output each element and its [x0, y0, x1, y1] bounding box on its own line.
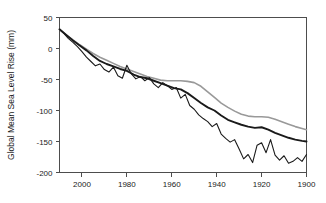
data-series-group: [60, 29, 307, 163]
y-tick-label: -100: [36, 107, 53, 116]
y-tick-label: -200: [36, 169, 53, 178]
series-line-thick-black-smoothed: [60, 29, 307, 141]
x-axis-ticks: 200019801960194019201900: [73, 173, 316, 189]
x-tick-label: 1920: [253, 180, 271, 189]
y-axis-title: Global Mean Sea Level Rise (mm): [6, 30, 16, 160]
plot-frame: [60, 17, 307, 173]
x-tick-label: 1940: [208, 180, 226, 189]
x-tick-label: 1960: [163, 180, 181, 189]
sea-level-rise-line-chart: 500-50-100-150-200 200019801960194019201…: [0, 0, 326, 203]
y-axis-ticks: 500-50-100-150-200: [36, 14, 59, 178]
y-tick-label: 0: [48, 45, 53, 54]
y-tick-label: -50: [41, 76, 53, 85]
x-tick-label: 1900: [298, 180, 316, 189]
x-tick-label: 2000: [73, 180, 91, 189]
y-tick-label: 50: [44, 14, 53, 23]
y-tick-label: -150: [36, 138, 53, 147]
chart-figure: 500-50-100-150-200 200019801960194019201…: [0, 0, 326, 203]
series-line-noisy-black-annual: [60, 29, 307, 163]
series-line-smooth-gray-reconstruction: [60, 29, 307, 129]
x-tick-label: 1980: [118, 180, 136, 189]
